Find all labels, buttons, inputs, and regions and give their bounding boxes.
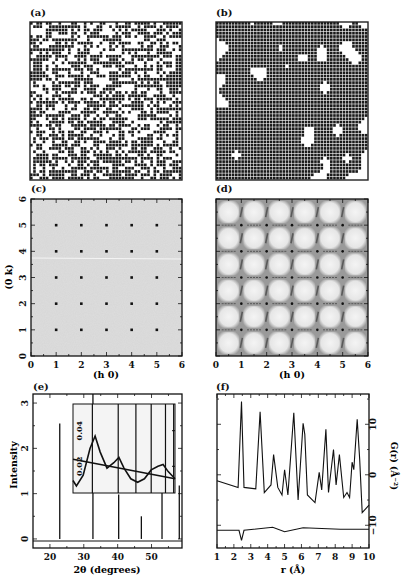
svg-text:7: 7 (315, 552, 321, 562)
c-ylabel: (0 k) (3, 264, 14, 290)
e-ylabel: Intensity (8, 441, 19, 489)
svg-text:4: 4 (265, 552, 271, 562)
svg-text:4: 4 (314, 360, 320, 370)
svg-text:10: 10 (363, 552, 376, 562)
panel-f-plot: 12345678910−10010 (214, 394, 378, 562)
panel-d-plot: 0123456 (213, 199, 371, 370)
svg-text:2: 2 (20, 445, 30, 451)
panel-b-lattice (216, 22, 368, 180)
svg-text:6: 6 (365, 360, 371, 370)
svg-text:2: 2 (18, 301, 28, 307)
svg-text:4: 4 (18, 248, 28, 254)
f-xlabel: r (Å) (281, 564, 306, 575)
e-xlabel: 2θ (degrees) (73, 564, 140, 575)
f-ylabel: G(r) (Å⁻²) (389, 442, 400, 490)
svg-text:6: 6 (18, 196, 28, 202)
svg-text:1: 1 (20, 491, 30, 497)
svg-text:0: 0 (20, 536, 30, 542)
svg-text:30: 30 (78, 552, 91, 562)
svg-text:1: 1 (238, 360, 244, 370)
svg-text:−10: −10 (368, 515, 378, 535)
svg-text:0: 0 (18, 353, 28, 359)
svg-text:50: 50 (145, 552, 158, 562)
panel-e-plot: 0.020.04 203040500123 (20, 394, 182, 562)
svg-text:5: 5 (154, 360, 160, 370)
svg-text:20: 20 (44, 552, 57, 562)
svg-text:3: 3 (20, 400, 30, 406)
svg-text:2: 2 (231, 552, 237, 562)
svg-text:8: 8 (332, 552, 338, 562)
svg-text:40: 40 (111, 552, 124, 562)
d-xlabel: (h 0) (279, 369, 305, 380)
svg-text:5: 5 (340, 360, 346, 370)
svg-text:2: 2 (264, 360, 270, 370)
svg-text:1: 1 (18, 327, 28, 333)
svg-text:6: 6 (179, 360, 185, 370)
svg-text:6: 6 (298, 552, 304, 562)
svg-text:0.04: 0.04 (74, 421, 84, 441)
svg-text:0: 0 (28, 360, 34, 370)
svg-text:2: 2 (78, 360, 84, 370)
c-xlabel: (h 0) (93, 369, 119, 380)
panel-c-plot: 01234560123456 (18, 196, 185, 370)
svg-text:10: 10 (368, 418, 378, 431)
figure-canvas: 01234560123456 (h 0) (0 k) 0123456 (h 0)… (0, 0, 402, 585)
svg-text:3: 3 (18, 274, 28, 280)
svg-text:1: 1 (53, 360, 59, 370)
svg-text:3: 3 (248, 552, 254, 562)
svg-text:5: 5 (281, 552, 287, 562)
svg-text:0.02: 0.02 (74, 457, 84, 476)
svg-text:5: 5 (18, 222, 28, 228)
svg-text:4: 4 (129, 360, 135, 370)
svg-text:9: 9 (349, 552, 355, 562)
svg-text:0: 0 (213, 360, 219, 370)
panel-a-lattice (30, 22, 182, 180)
svg-text:1: 1 (214, 552, 220, 562)
svg-text:0: 0 (368, 472, 378, 478)
